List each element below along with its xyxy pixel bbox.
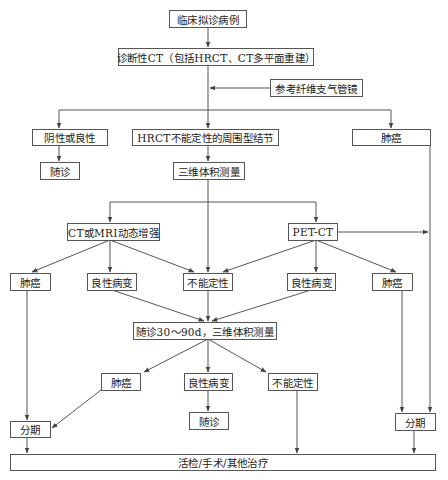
- node-treatment: 活检/手术/其他治疗: [10, 454, 436, 471]
- node-cancer-lower: 肺癌: [101, 373, 141, 391]
- node-indeterminate-lower: 不能定性: [268, 373, 318, 391]
- flowchart: 临床拟诊病例 诊断性CT（包括HRCT、CT多平面重建） 参考纤维支气管镜 阴性…: [0, 0, 448, 480]
- node-benign-right: 良性病变: [287, 273, 336, 291]
- node-start: 临床拟诊病例: [169, 10, 247, 28]
- node-bronchoscopy: 参考纤维支气管镜: [270, 79, 363, 97]
- node-benign-lower: 良性病变: [184, 373, 233, 391]
- node-cancer-right: 肺癌: [372, 273, 413, 291]
- node-followup-2: 随诊: [189, 412, 229, 430]
- node-diagnostic-ct: 诊断性CT（包括HRCT、CT多平面重建）: [118, 48, 314, 66]
- node-cancer-top: 肺癌: [352, 129, 431, 146]
- node-cancer-left: 肺癌: [10, 273, 51, 291]
- node-negative-benign: 阴性或良性: [32, 129, 108, 146]
- node-indeterminate-mid: 不能定性: [183, 273, 233, 291]
- node-hrct-indeterminate: HRCT不能定性的周围型结节: [132, 129, 279, 146]
- node-followup-1: 随诊: [40, 162, 80, 180]
- node-followup-volume: 随诊30～90d，三维体积测量: [133, 322, 277, 340]
- node-staging-right: 分期: [395, 413, 436, 431]
- node-3d-volume: 三维体积测量: [173, 162, 245, 180]
- node-ct-mri-enhanced: CT或MRI动态增强: [67, 223, 160, 241]
- node-benign-left: 良性病变: [87, 273, 137, 291]
- node-staging-left: 分期: [10, 421, 51, 438]
- node-pet-ct: PET-CT: [288, 223, 338, 241]
